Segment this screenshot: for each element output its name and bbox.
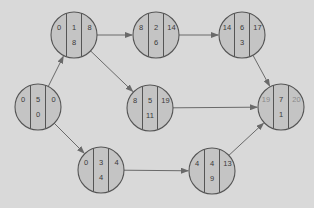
- node-duration-label: 1: [279, 110, 283, 119]
- node-activity-id-label: 6: [240, 23, 244, 32]
- node-activity-id-label: 5: [148, 96, 152, 105]
- node-n2: 82146: [133, 12, 179, 58]
- node-early-start-label: 0: [57, 23, 61, 32]
- node-early-finish-label: 4: [114, 158, 118, 167]
- node-early-finish-label: 19: [161, 96, 169, 105]
- node-duration-label: 0: [36, 110, 40, 119]
- node-early-finish-label: 0: [51, 95, 55, 104]
- node-early-finish-label: 17: [253, 23, 261, 32]
- node-early-start-label: 8: [133, 96, 137, 105]
- node-n5: 851911: [127, 85, 173, 131]
- node-activity-id-label: 3: [99, 158, 103, 167]
- node-early-start-label: 8: [139, 23, 143, 32]
- node-activity-id-label: 1: [72, 23, 76, 32]
- arrow-n0-to-n3: [54, 123, 84, 153]
- node-early-finish-label: 13: [223, 159, 231, 168]
- node-activity-id-label: 4: [210, 159, 214, 168]
- node-early-finish-label: 14: [167, 23, 175, 32]
- node-n7: 197201: [258, 84, 304, 130]
- node-duration-label: 9: [210, 174, 214, 183]
- node-n3: 0344: [78, 147, 124, 193]
- node-n4: 44139: [189, 148, 235, 194]
- node-early-start-label: 4: [195, 159, 199, 168]
- node-activity-id-label: 5: [36, 95, 40, 104]
- node-duration-label: 3: [240, 38, 244, 47]
- arrow-n4-to-n7: [229, 123, 264, 155]
- nodes-layer: 0500018882146146173851911197201034444139: [15, 12, 304, 194]
- node-activity-id-label: 2: [154, 23, 158, 32]
- node-n1: 0188: [51, 12, 97, 58]
- node-early-start-label: 19: [262, 95, 270, 104]
- node-duration-label: 6: [154, 38, 158, 47]
- node-duration-label: 4: [99, 173, 103, 182]
- node-early-finish-label: 20: [292, 95, 300, 104]
- network-diagram: 0500018882146146173851911197201034444139: [0, 0, 314, 208]
- node-early-start-label: 0: [21, 95, 25, 104]
- node-duration-label: 11: [146, 111, 154, 120]
- node-duration-label: 8: [72, 38, 76, 47]
- node-early-start-label: 0: [84, 158, 88, 167]
- node-early-finish-label: 8: [87, 23, 91, 32]
- arrow-n1-to-n5: [91, 51, 133, 91]
- node-activity-id-label: 7: [279, 95, 283, 104]
- arrow-n5-to-n7: [173, 107, 257, 108]
- arrow-n3-to-n4: [124, 170, 188, 171]
- diagram-svg: 0500018882146146173851911197201034444139: [0, 0, 314, 208]
- node-early-start-label: 14: [223, 23, 231, 32]
- arrow-n0-to-n1: [48, 56, 63, 86]
- arrow-n6-to-n7: [253, 55, 270, 86]
- node-n0: 0500: [15, 84, 61, 130]
- node-n6: 146173: [219, 12, 265, 58]
